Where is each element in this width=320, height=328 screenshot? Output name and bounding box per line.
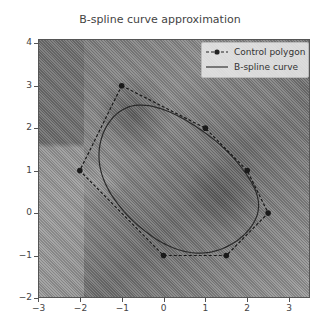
x-tick-label: 2	[241, 303, 253, 313]
y-tick-label: 2	[26, 122, 32, 132]
x-tick-label: −1	[116, 303, 128, 313]
y-tick-label: 0	[26, 207, 32, 217]
y-tick	[34, 43, 38, 44]
x-tick	[38, 298, 39, 302]
b-spline-curve	[99, 105, 259, 253]
legend-label: Control polygon	[234, 47, 305, 57]
y-tick	[34, 213, 38, 214]
x-tick	[122, 298, 123, 302]
legend-item-b-spline-curve: B-spline curve	[206, 62, 298, 72]
x-tick-label: −2	[74, 303, 86, 313]
x-tick	[80, 298, 81, 302]
control-point	[77, 168, 83, 174]
legend-item-control-polygon: Control polygon	[206, 47, 305, 57]
chart-title: B-spline curve approximation	[0, 13, 320, 26]
solid-line-icon	[206, 63, 228, 71]
control-point	[224, 253, 230, 259]
control-point	[244, 168, 250, 174]
y-tick	[34, 171, 38, 172]
x-tick-label: −3	[32, 303, 44, 313]
x-tick-label: 1	[199, 303, 211, 313]
control-point	[203, 125, 209, 131]
x-tick	[205, 298, 206, 302]
y-tick	[34, 86, 38, 87]
x-tick	[164, 298, 165, 302]
y-tick-label: 3	[26, 80, 32, 90]
y-tick-label: −1	[19, 250, 32, 260]
control-point	[265, 210, 271, 216]
y-tick	[34, 256, 38, 257]
legend-label: B-spline curve	[234, 62, 298, 72]
y-tick-label: 1	[26, 165, 32, 175]
x-tick-label: 0	[158, 303, 170, 313]
control-polygon	[80, 86, 268, 256]
x-tick	[247, 298, 248, 302]
y-tick-label: 4	[26, 37, 32, 47]
control-point-markers	[77, 83, 271, 258]
y-tick-label: −2	[19, 292, 32, 302]
y-tick	[34, 128, 38, 129]
legend: Control polygon B-spline curve	[201, 42, 309, 78]
x-tick	[289, 298, 290, 302]
control-point	[161, 253, 167, 259]
x-tick-label: 3	[283, 303, 295, 313]
control-point	[119, 83, 125, 89]
dashed-line-marker-icon	[206, 48, 228, 56]
